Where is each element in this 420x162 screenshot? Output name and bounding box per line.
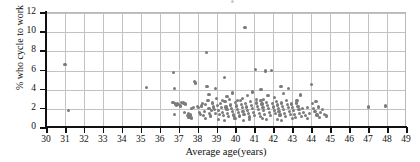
data-point bbox=[63, 63, 66, 66]
data-point bbox=[384, 104, 387, 107]
data-point bbox=[251, 107, 254, 110]
data-point bbox=[241, 106, 244, 109]
data-point bbox=[278, 113, 281, 116]
data-point bbox=[217, 109, 220, 112]
x-tick-mark bbox=[198, 127, 200, 133]
data-point bbox=[275, 100, 278, 103]
data-point bbox=[145, 86, 148, 89]
data-point bbox=[206, 99, 209, 102]
data-point bbox=[325, 114, 328, 117]
data-point bbox=[210, 109, 213, 112]
x-tick-mark bbox=[84, 127, 86, 133]
data-point bbox=[264, 69, 267, 72]
y-tick-mark bbox=[40, 70, 47, 72]
data-point bbox=[205, 51, 208, 54]
data-point bbox=[227, 115, 230, 118]
data-point bbox=[308, 112, 311, 115]
data-point bbox=[280, 119, 283, 122]
y-axis-title: % who cycle to work bbox=[14, 0, 25, 104]
x-tick-mark bbox=[311, 127, 313, 133]
data-point bbox=[211, 101, 214, 104]
data-point bbox=[319, 111, 322, 114]
data-point bbox=[194, 81, 197, 84]
x-axis-title: Average age(years) bbox=[46, 146, 406, 157]
data-point bbox=[209, 114, 212, 117]
data-point bbox=[284, 115, 287, 118]
data-point bbox=[269, 114, 272, 117]
data-point bbox=[306, 117, 309, 120]
y-tick-mark bbox=[40, 50, 47, 52]
data-point bbox=[214, 112, 217, 115]
data-point bbox=[203, 110, 206, 113]
data-point bbox=[246, 94, 249, 97]
x-tick-mark bbox=[160, 127, 162, 133]
x-tick-mark bbox=[254, 127, 256, 133]
data-point bbox=[292, 109, 295, 112]
data-point bbox=[241, 97, 244, 100]
data-point bbox=[282, 108, 285, 111]
x-tick-mark bbox=[179, 127, 181, 133]
scatter-points-layer bbox=[46, 13, 405, 127]
data-point bbox=[213, 108, 216, 111]
x-tick-mark bbox=[103, 127, 105, 133]
x-tick-mark bbox=[217, 127, 219, 133]
data-point bbox=[261, 117, 264, 120]
data-point bbox=[270, 69, 273, 72]
x-tick-mark bbox=[122, 127, 124, 133]
data-point bbox=[285, 99, 288, 102]
x-tick-mark bbox=[406, 127, 408, 133]
clipped-datapoint-marker bbox=[231, 0, 234, 3]
data-point bbox=[282, 92, 285, 95]
x-tick-mark bbox=[235, 127, 237, 133]
data-point bbox=[259, 88, 262, 91]
data-point bbox=[287, 106, 290, 109]
data-point bbox=[254, 68, 257, 71]
data-point bbox=[222, 114, 225, 117]
data-point bbox=[318, 116, 321, 119]
data-point bbox=[274, 112, 277, 115]
x-tick-mark bbox=[368, 127, 370, 133]
data-point bbox=[297, 108, 300, 111]
scatter-chart-figure: 024681012 303132333435363738394041424344… bbox=[0, 0, 420, 162]
x-tick-mark bbox=[141, 127, 143, 133]
data-point bbox=[273, 96, 276, 99]
data-point bbox=[173, 87, 176, 90]
data-point bbox=[253, 114, 256, 117]
data-point bbox=[367, 105, 370, 108]
x-tick-mark bbox=[46, 127, 48, 133]
y-tick-mark bbox=[40, 108, 47, 110]
data-point bbox=[310, 83, 313, 86]
data-point bbox=[214, 87, 217, 90]
data-point bbox=[289, 113, 292, 116]
data-point bbox=[228, 98, 231, 101]
data-point bbox=[223, 76, 226, 79]
x-tick-mark bbox=[349, 127, 351, 133]
data-point bbox=[251, 90, 254, 93]
y-tick-label: 0 bbox=[6, 122, 36, 132]
x-tick-mark bbox=[65, 127, 67, 133]
x-tick-mark bbox=[292, 127, 294, 133]
data-point bbox=[249, 100, 252, 103]
data-point bbox=[204, 103, 207, 106]
y-tick-mark bbox=[40, 12, 47, 14]
data-point bbox=[205, 85, 208, 88]
data-point bbox=[225, 95, 228, 98]
data-point bbox=[207, 93, 210, 96]
data-point bbox=[238, 114, 241, 117]
data-point bbox=[255, 98, 258, 101]
data-point bbox=[215, 97, 218, 100]
data-point bbox=[204, 117, 207, 120]
data-point bbox=[263, 113, 266, 116]
x-tick-label: 49 bbox=[394, 134, 418, 144]
data-point bbox=[172, 71, 175, 74]
data-point bbox=[190, 116, 193, 119]
data-point bbox=[173, 113, 176, 116]
data-point bbox=[295, 99, 298, 102]
data-point bbox=[242, 113, 245, 116]
data-point bbox=[317, 105, 320, 108]
data-point bbox=[223, 119, 226, 122]
data-point bbox=[242, 119, 245, 122]
data-point bbox=[192, 106, 195, 109]
data-point bbox=[265, 118, 268, 121]
data-point bbox=[184, 102, 187, 105]
